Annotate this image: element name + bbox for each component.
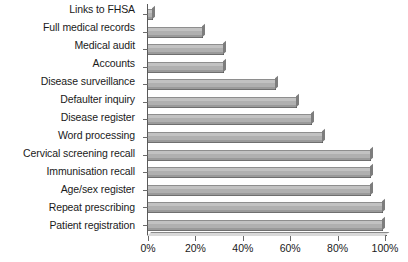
bar-row [148, 185, 385, 196]
bar [148, 132, 323, 143]
y-axis-tick [143, 137, 148, 138]
x-axis-tick [385, 236, 386, 241]
bar [148, 27, 203, 38]
plot-area [148, 6, 385, 234]
bar-row [148, 97, 385, 108]
bars-layer [148, 6, 385, 234]
category-label: Immunisation recall [46, 166, 135, 177]
x-axis-tick-label: 40% [232, 242, 253, 254]
bar-row [148, 114, 385, 125]
x-axis-tick-label: 60% [280, 242, 301, 254]
bar [148, 167, 371, 178]
bar [148, 202, 383, 213]
bar-row [148, 44, 385, 55]
x-axis-tick [243, 236, 244, 241]
bar [148, 44, 224, 55]
x-axis-tick-label: 80% [327, 242, 348, 254]
bar [148, 185, 371, 196]
category-label: Medical audit [74, 40, 135, 51]
bar-row [148, 62, 385, 73]
bar [148, 114, 312, 125]
bar-row [148, 167, 385, 178]
category-label: Full medical records [43, 22, 135, 33]
category-label: Disease surveillance [41, 76, 135, 87]
bar [148, 150, 371, 161]
category-label: Links to FHSA [69, 4, 135, 15]
bar-row [148, 9, 385, 20]
bar-row [148, 132, 385, 143]
y-axis-tick [143, 172, 148, 173]
category-label: Disease register [61, 112, 135, 123]
bar-row [148, 202, 385, 213]
x-axis-tick [148, 236, 149, 241]
y-axis-tick [143, 119, 148, 120]
x-axis-tick-label: 0% [140, 242, 155, 254]
category-label: Accounts [93, 58, 135, 69]
y-axis-tick [143, 225, 148, 226]
y-axis-tick [143, 207, 148, 208]
category-label: Patient registration [49, 220, 135, 231]
bar-row [148, 150, 385, 161]
y-axis-tick [143, 49, 148, 50]
x-axis-tick [195, 236, 196, 241]
bar-row [148, 27, 385, 38]
category-label: Defaulter inquiry [60, 94, 135, 105]
category-axis: Links to FHSAFull medical recordsMedical… [0, 0, 140, 234]
y-axis-tick [143, 155, 148, 156]
y-axis-tick [143, 14, 148, 15]
y-axis-tick [143, 67, 148, 68]
category-label: Repeat prescribing [49, 202, 135, 213]
x-axis-ticks: 0%20%40%60%80%100% [0, 236, 408, 262]
x-axis-tick [338, 236, 339, 241]
category-label: Word processing [58, 130, 135, 141]
y-axis-tick [143, 32, 148, 33]
x-axis-tick [290, 236, 291, 241]
bar [148, 220, 383, 231]
horizontal-bar-chart: Links to FHSAFull medical recordsMedical… [0, 0, 408, 262]
x-axis-tick-label: 20% [185, 242, 206, 254]
category-label: Age/sex register [61, 184, 135, 195]
y-axis-tick [143, 190, 148, 191]
bar [148, 97, 297, 108]
y-axis-tick [143, 84, 148, 85]
y-axis-tick [143, 102, 148, 103]
bar-row [148, 220, 385, 231]
bar [148, 79, 276, 90]
category-label: Cervical screening recall [23, 148, 135, 159]
x-axis-tick-label: 100% [372, 242, 399, 254]
bar [148, 62, 224, 73]
bar [148, 9, 153, 20]
bar-row [148, 79, 385, 90]
